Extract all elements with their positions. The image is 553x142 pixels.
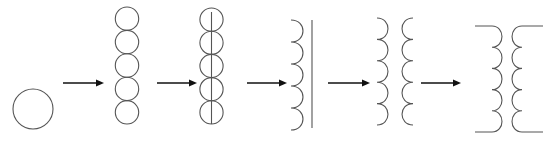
arrow-head xyxy=(279,80,287,87)
stages xyxy=(13,7,543,132)
primary-winding xyxy=(475,26,502,132)
loop-circle xyxy=(13,89,53,129)
arrows xyxy=(63,80,461,87)
arrow-icon-5 xyxy=(421,80,461,87)
half-coil xyxy=(291,20,303,130)
stage-single-circle xyxy=(13,89,53,129)
right-half-coil xyxy=(402,18,413,125)
loop-circle xyxy=(115,101,138,124)
arrow-head xyxy=(96,80,104,87)
loop-circle xyxy=(115,7,138,30)
arrow-head xyxy=(189,80,197,87)
loop-circle xyxy=(115,30,138,53)
coil-to-transformer-diagram xyxy=(0,0,553,142)
stage-stacked-circles-bisected xyxy=(200,8,223,124)
secondary-winding xyxy=(512,26,543,132)
arrow-icon-3 xyxy=(247,80,287,87)
arrow-icon-4 xyxy=(328,80,370,87)
arrow-head xyxy=(362,80,370,87)
stage-half-coil-with-core xyxy=(291,20,312,130)
stage-two-half-coils xyxy=(377,18,413,125)
arrow-icon-2 xyxy=(157,80,197,87)
arrow-head xyxy=(453,80,461,87)
diagram-canvas xyxy=(0,0,553,142)
left-half-coil xyxy=(377,18,388,125)
stage-stacked-circles xyxy=(115,7,138,124)
stage-transformer-symbol xyxy=(475,26,543,132)
arrow-icon-1 xyxy=(63,80,104,87)
loop-circle xyxy=(115,54,138,77)
loop-circle xyxy=(115,77,138,100)
